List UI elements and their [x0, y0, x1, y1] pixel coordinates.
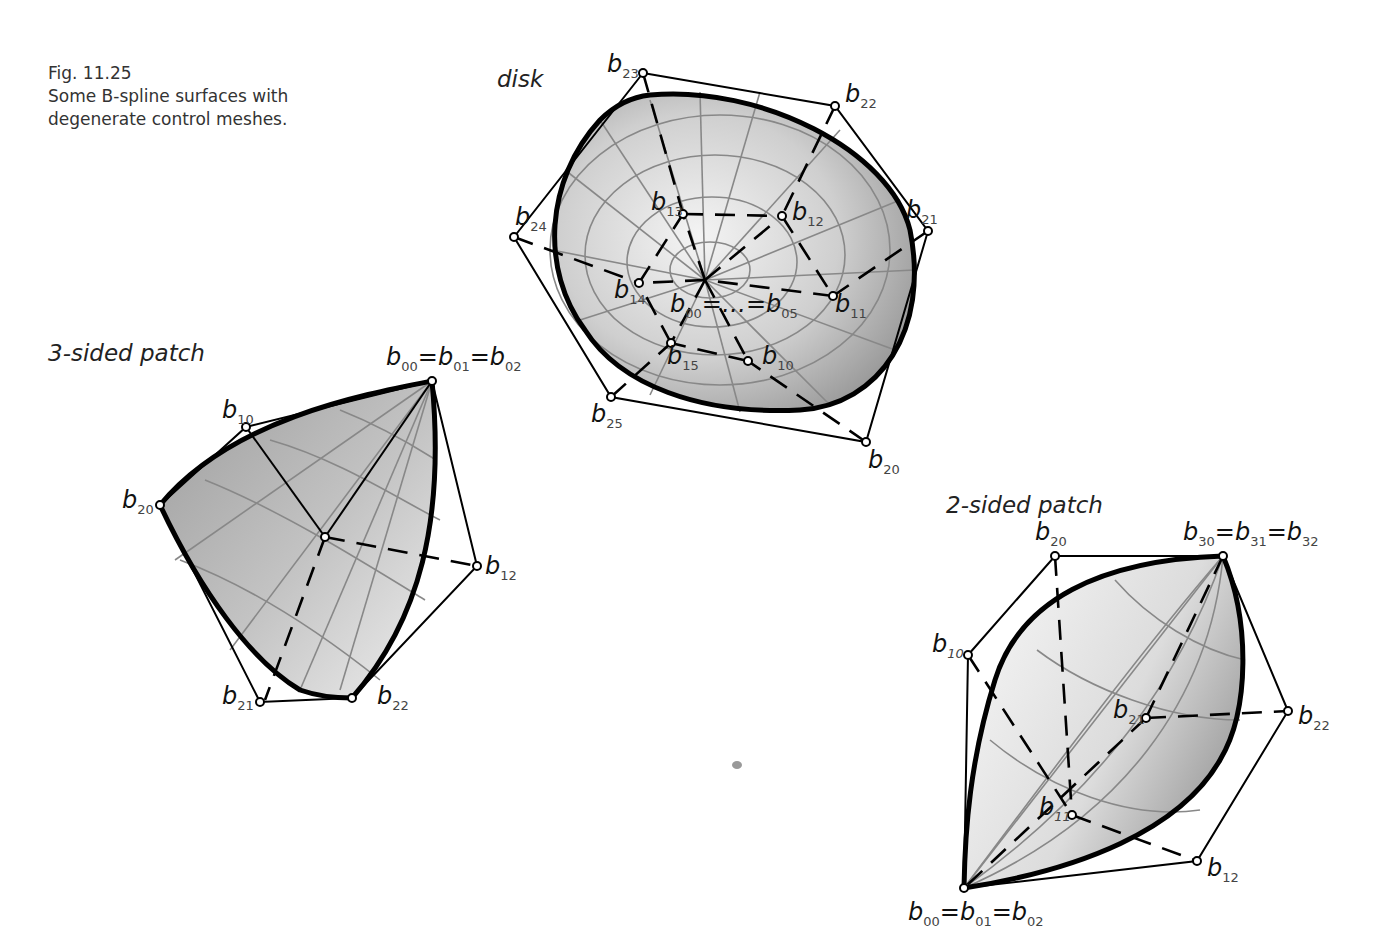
three-sided-surface [160, 381, 435, 698]
label-b23: b23 [607, 50, 639, 81]
label-b21: b21 [222, 682, 254, 713]
label-b30-b31-b32: b30=b31=b32 [1183, 518, 1319, 549]
label-b12: b12 [1207, 854, 1239, 885]
three-sided-figure: b00=b01=b02 b10 b20 b12 b21 b22 [122, 343, 522, 713]
label-b20: b20 [1035, 518, 1067, 549]
disk-figure: b23 b22 b21 b20 b25 b24 b13 b12 b11 b10 … [510, 50, 938, 477]
label-b21: b21 [906, 196, 938, 227]
label-b22: b22 [1298, 702, 1330, 733]
stray-mark [732, 761, 742, 769]
label-b00-b01-b02-apex: b00=b01=b02 [386, 343, 522, 374]
label-b00-b01-b02-bottom: b00=b01=b02 [908, 898, 1044, 929]
two-sided-surface [964, 556, 1243, 888]
diagram-canvas: b23 b22 b21 b20 b25 b24 b13 b12 b11 b10 … [0, 0, 1375, 951]
label-b10: b10 [932, 630, 964, 661]
label-b24: b24 [515, 203, 547, 234]
label-b22: b22 [845, 80, 877, 111]
two-sided-figure: b20 b30=b31=b32 b10 b21 b22 b11 b12 b00=… [908, 518, 1330, 929]
label-b10: b10 [222, 396, 254, 427]
label-b20: b20 [122, 486, 154, 517]
label-b22: b22 [377, 682, 409, 713]
label-b20: b20 [868, 446, 900, 477]
label-b12: b12 [485, 552, 517, 583]
label-b25: b25 [591, 400, 623, 431]
